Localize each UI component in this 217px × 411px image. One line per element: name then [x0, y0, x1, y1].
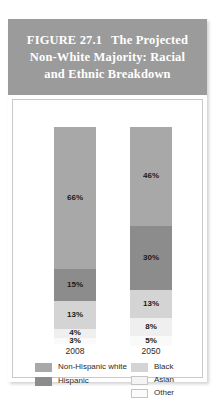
bar-segment-label: 5% [145, 337, 157, 345]
legend-item-label: Non-Hispanic white [58, 362, 127, 372]
stacked-bar-2008[interactable]: 66% 15% 13% 4% 3% [54, 127, 96, 342]
figure-title-part-1: The Projected [111, 33, 188, 47]
bar-segment-other[interactable]: 3% [54, 338, 96, 344]
bar-segment-black[interactable]: 13% [54, 301, 96, 329]
bar-segment-label: 4% [69, 329, 81, 337]
x-axis-label-2008: 2008 [54, 346, 96, 356]
legend-swatch-icon [35, 363, 52, 372]
figure-title-line-1: FIGURE 27.1The Projected [18, 32, 197, 49]
bar-segment-label: 13% [67, 311, 83, 319]
bar-segment-asian[interactable]: 8% [130, 318, 172, 335]
bar-segment-label: 15% [67, 281, 83, 289]
bar-segment-hispanic[interactable]: 15% [54, 269, 96, 301]
bar-segment-black[interactable]: 13% [130, 290, 172, 318]
bar-group-2008: 66% 15% 13% 4% 3% [54, 127, 96, 342]
legend-item-label: Other [154, 388, 174, 398]
legend-item-hispanic[interactable]: Hispanic [35, 376, 127, 386]
legend-column-left: Non-Hispanic white Hispanic [35, 362, 127, 389]
legend-column-right: Black Asian Other [131, 362, 203, 401]
bar-segment-label: 8% [145, 323, 157, 331]
bar-segment-label: 46% [143, 172, 159, 180]
bar-segment-hispanic[interactable]: 30% [130, 226, 172, 291]
legend-item-asian[interactable]: Asian [131, 375, 203, 385]
legend-item-non-hispanic-white[interactable]: Non-Hispanic white [35, 362, 127, 372]
bar-segment-asian[interactable]: 4% [54, 329, 96, 338]
figure-title-line-2: Non-White Majority: Racial [18, 49, 197, 66]
legend-item-label: Hispanic [58, 376, 89, 386]
legend-item-label: Black [154, 362, 174, 372]
figure-card: FIGURE 27.1The Projected Non-White Major… [8, 19, 207, 382]
chart-panel: 66% 15% 13% 4% 3% 46% 30% 13% 8% 5% 2008… [12, 99, 203, 378]
bar-segment-label: 13% [143, 300, 159, 308]
bar-segment-label: 3% [69, 338, 81, 344]
legend-swatch-icon [35, 377, 52, 386]
bar-segment-non-hispanic-white[interactable]: 66% [54, 127, 96, 269]
bar-segment-other[interactable]: 5% [130, 336, 172, 347]
bar-segment-non-hispanic-white[interactable]: 46% [130, 127, 172, 226]
bar-segment-label: 30% [143, 254, 159, 262]
chart-legend: Non-Hispanic white Hispanic Black Asian [13, 362, 204, 411]
legend-swatch-icon [131, 363, 148, 372]
figure-title: FIGURE 27.1The Projected Non-White Major… [18, 32, 197, 83]
figure-number: FIGURE 27.1 [27, 33, 102, 47]
stacked-bar-2050[interactable]: 46% 30% 13% 8% 5% [130, 127, 172, 342]
legend-item-black[interactable]: Black [131, 362, 203, 372]
legend-item-other[interactable]: Other [131, 388, 203, 398]
figure-title-line-3: and Ethnic Breakdown [18, 66, 197, 83]
plot-area: 66% 15% 13% 4% 3% 46% 30% 13% 8% 5% 2008… [13, 100, 202, 377]
bar-group-2050: 46% 30% 13% 8% 5% [130, 127, 172, 342]
bar-segment-label: 66% [67, 194, 83, 202]
x-axis-label-2050: 2050 [130, 346, 172, 356]
legend-item-label: Asian [154, 375, 174, 385]
legend-swatch-icon [131, 376, 148, 385]
legend-swatch-icon [131, 389, 148, 398]
figure-header: FIGURE 27.1The Projected Non-White Major… [8, 19, 207, 95]
